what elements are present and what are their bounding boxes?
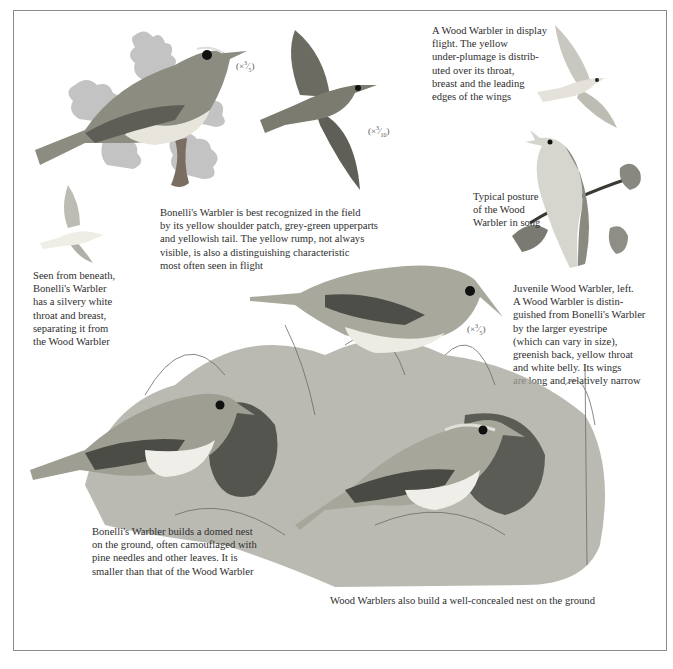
scale-label-flying-bonelli: (×3⁄10) — [368, 125, 390, 138]
scale-suffix: ) — [387, 126, 390, 136]
scale-numerator: 3 — [475, 323, 478, 329]
caption-display-flight: A Wood Warbler in display flight. The ye… — [432, 24, 547, 103]
scale-prefix: (× — [467, 324, 475, 334]
bonelli-warbler-from-beneath-illustration — [38, 183, 108, 263]
scale-suffix: ) — [483, 324, 486, 334]
caption-bonelli-nest: Bonelli's Warbler builds a domed nest on… — [92, 525, 257, 578]
bonelli-warbler-perched-illustration — [25, 25, 275, 205]
scale-prefix: (× — [368, 126, 376, 136]
caption-wood-warbler-nest: Wood Warblers also build a well-conceale… — [330, 594, 595, 607]
caption-song-posture: Typical posture of the Wood Warbler in s… — [473, 190, 540, 230]
scale-numerator: 3 — [376, 125, 379, 131]
scale-label-perched-bonelli: (×3⁄5) — [236, 60, 255, 73]
scale-prefix: (× — [236, 61, 244, 71]
scale-numerator: 3 — [244, 60, 247, 66]
scale-label-juvenile-wood: (×3⁄5) — [467, 323, 486, 336]
caption-bonelli-field-marks: Bonelli's Warbler is best recognized in … — [160, 206, 378, 272]
wood-warbler-display-flight-illustration — [535, 20, 625, 135]
bonelli-warbler-flight-above-illustration — [255, 25, 385, 195]
